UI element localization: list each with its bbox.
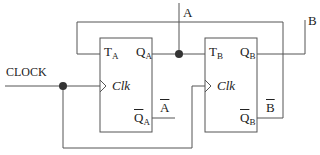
ff-b-q-label: QB — [240, 45, 255, 58]
output-b-bar-label: B — [266, 101, 275, 114]
output-a-label: A — [183, 6, 192, 19]
ff-a-q-label: QA — [136, 45, 152, 58]
output-b-label: B — [308, 14, 317, 27]
ff-b-qbar-label: QB — [240, 111, 255, 124]
junction-a-dot — [175, 50, 183, 58]
ff-b-clk-label: Clk — [217, 79, 235, 92]
ff-a-clk-label: Clk — [112, 79, 130, 92]
ff-b-t-label: TB — [209, 45, 223, 58]
ff-a-qbar-label: QA — [134, 111, 150, 124]
circuit-canvas — [0, 0, 320, 155]
output-a-bar-label: A — [160, 101, 169, 114]
junction-clock-dot — [59, 82, 67, 90]
ff-a-t-label: TA — [104, 45, 118, 58]
clock-label: CLOCK — [6, 66, 47, 78]
qb-output-wire — [257, 20, 305, 54]
